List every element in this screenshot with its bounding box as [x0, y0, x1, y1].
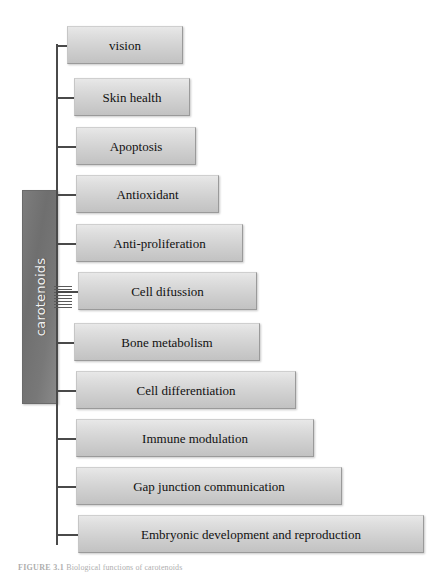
- node-label: Apoptosis: [110, 140, 163, 153]
- figure-diagram: carotenoids visionSkin healthApoptosisAn…: [0, 0, 446, 576]
- root-node-label: carotenoids: [33, 258, 48, 336]
- node-box[interactable]: Gap junction communication: [76, 467, 342, 505]
- node-box[interactable]: Bone metabolism: [74, 323, 260, 361]
- node-box[interactable]: Anti-proliferation: [76, 224, 243, 262]
- node-box[interactable]: vision: [67, 26, 183, 64]
- connector-line: [56, 291, 78, 293]
- node-box[interactable]: Cell differentiation: [76, 371, 296, 409]
- connector-line: [56, 243, 76, 245]
- node-box[interactable]: Antioxidant: [76, 175, 219, 213]
- node-box[interactable]: Embryonic development and reproduction: [78, 515, 424, 553]
- figure-caption: FIGURE 3.1 Biological functions of carot…: [18, 563, 428, 572]
- connector-line: [56, 342, 74, 344]
- root-node-carotenoids[interactable]: carotenoids: [22, 190, 58, 404]
- node-label: Antioxidant: [116, 188, 178, 201]
- node-label: Skin health: [103, 91, 162, 104]
- node-box[interactable]: Skin health: [74, 78, 190, 116]
- connector-line: [56, 534, 78, 536]
- node-label: Bone metabolism: [121, 336, 212, 349]
- connector-line: [56, 45, 67, 47]
- node-label: Cell differentiation: [136, 384, 235, 397]
- node-label: Cell difussion: [131, 285, 204, 298]
- node-label: Embryonic development and reproduction: [141, 528, 361, 541]
- connector-line: [56, 486, 76, 488]
- node-label: vision: [109, 39, 141, 52]
- node-label: Anti-proliferation: [113, 237, 205, 250]
- node-box[interactable]: Cell difussion: [78, 272, 257, 310]
- node-label: Gap junction communication: [133, 480, 285, 493]
- node-label: Immune modulation: [142, 432, 248, 445]
- figure-caption-label: FIGURE 3.1: [18, 563, 64, 572]
- root-connector-comb: [54, 286, 72, 308]
- connector-line: [56, 438, 76, 440]
- node-box[interactable]: Apoptosis: [76, 127, 196, 165]
- connector-line: [56, 97, 74, 99]
- connector-line: [56, 194, 76, 196]
- figure-caption-text: Biological functions of carotenoids: [66, 563, 182, 572]
- connector-line: [56, 390, 76, 392]
- node-box[interactable]: Immune modulation: [76, 419, 314, 457]
- connector-line: [56, 146, 76, 148]
